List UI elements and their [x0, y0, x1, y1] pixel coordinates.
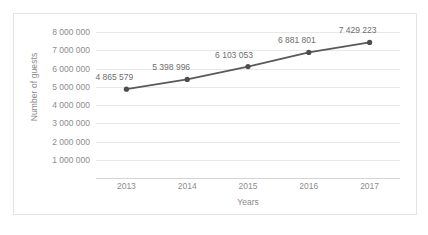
data-point-label: 6 881 801 — [257, 35, 337, 45]
y-tick-label: 1 000 000 — [10, 155, 90, 165]
data-point-marker — [124, 87, 129, 92]
y-tick-label: 4 000 000 — [10, 100, 90, 110]
y-tick-label: 3 000 000 — [10, 118, 90, 128]
y-tick-label: 5 000 000 — [10, 82, 90, 92]
y-axis-tick-labels: 1 000 0002 000 0003 000 0004 000 0005 00… — [8, 32, 90, 178]
chart-container: Number of guests 1 000 0002 000 0003 000… — [0, 0, 428, 235]
y-tick-label: 2 000 000 — [10, 137, 90, 147]
data-point-marker — [185, 77, 190, 82]
data-point-marker — [245, 64, 250, 69]
data-point-marker — [367, 40, 372, 45]
data-point-label: 6 103 053 — [194, 50, 274, 60]
data-point-marker — [306, 50, 311, 55]
data-point-label: 5 398 996 — [131, 62, 211, 72]
x-tick-label: 2015 — [218, 181, 278, 191]
x-axis-title: Years — [96, 197, 400, 207]
x-axis-line — [96, 178, 400, 179]
x-tick-label: 2014 — [157, 181, 217, 191]
x-tick-label: 2013 — [96, 181, 156, 191]
x-tick-label: 2017 — [340, 181, 400, 191]
plot-area: 4 865 5795 398 9966 103 0536 881 8017 42… — [96, 32, 400, 178]
x-tick-label: 2016 — [279, 181, 339, 191]
x-axis-tick-labels: 20132014201520162017 — [96, 181, 400, 193]
y-tick-label: 8 000 000 — [10, 27, 90, 37]
data-point-label: 4 865 579 — [74, 72, 154, 82]
data-point-label: 7 429 223 — [318, 25, 398, 35]
y-tick-label: 7 000 000 — [10, 45, 90, 55]
